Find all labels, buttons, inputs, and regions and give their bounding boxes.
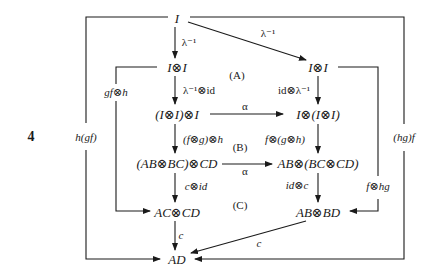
label-id-x-c: id⊗c — [286, 180, 309, 191]
label-alpha-top: α — [242, 101, 248, 112]
label-lambda-inv-right: λ⁻¹ — [261, 28, 275, 39]
region-label-B: (B) — [233, 142, 248, 153]
node-AB-tensor-BD: AB⊗BD — [296, 206, 340, 219]
node-top-I: I — [175, 12, 179, 25]
label-id-x-lambda-inv: id⊗λ⁻¹ — [278, 85, 310, 96]
label-lambda-inv-x-id: λ⁻¹⊗id — [183, 85, 215, 96]
arrow-c-diag — [191, 221, 306, 253]
node-AC-tensor-CD: AC⊗CD — [154, 206, 200, 219]
label-h-gf: h(gf) — [75, 132, 96, 143]
label-gf-x-h: gf⊗h — [104, 87, 127, 98]
node-right-I-tensor-I: I⊗I — [308, 61, 328, 74]
node-ABxBC-tensor-CD: (AB⊗BC)⊗CD — [137, 157, 218, 170]
arrow-lambda-inv-right — [188, 22, 306, 60]
label-f-gh: f⊗(g⊗h) — [265, 134, 305, 145]
label-hg-f: (hg)f — [393, 132, 414, 143]
label-f-x-hg: f⊗hg — [366, 181, 389, 192]
label-lambda-inv-left: λ⁻¹ — [182, 37, 196, 48]
label-fg-h: (f⊗g)⊗h — [183, 134, 223, 145]
label-alpha-bottom: α — [242, 166, 248, 177]
region-label-A: (A) — [229, 70, 244, 81]
label-c-diag: c — [257, 238, 262, 249]
node-left-I-tensor-I: I⊗I — [167, 61, 187, 74]
label-c-x-id: c⊗id — [185, 181, 208, 192]
figure-number: 4 — [28, 130, 35, 144]
node-AB-tensor-BCxCD: AB⊗(BC⊗CD) — [278, 157, 359, 170]
label-c-left: c — [179, 230, 184, 241]
node-AD: AD — [168, 253, 185, 266]
arrow-gf-x-h — [116, 67, 157, 84]
node-IxI-tensor-I: (I⊗I)⊗I — [155, 108, 198, 121]
region-label-C: (C) — [233, 200, 248, 211]
node-I-tensor-IxI: I⊗(I⊗I) — [296, 108, 339, 121]
